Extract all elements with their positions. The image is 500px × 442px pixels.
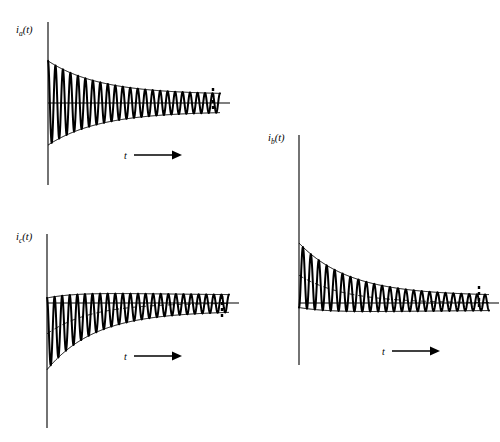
ib-time-axis-label: t xyxy=(382,346,385,357)
ia-time-axis-label: t xyxy=(124,150,127,161)
three-phase-fault-current-figure: ia(t) t ic(t) t ib(t) t xyxy=(0,0,500,442)
figure-background xyxy=(0,0,500,442)
ic-time-axis-label: t xyxy=(124,351,127,362)
